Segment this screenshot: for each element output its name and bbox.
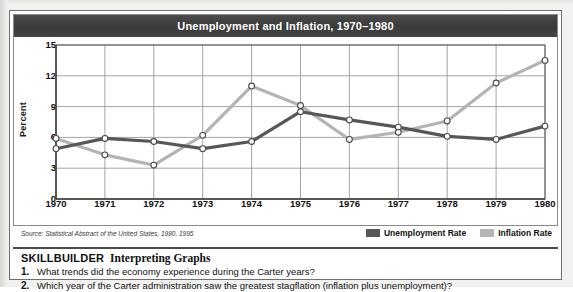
x-tick-label: 1971 bbox=[85, 199, 125, 209]
data-point-inflation bbox=[347, 137, 353, 143]
legend-item: Inflation Rate bbox=[480, 228, 552, 238]
x-tick-label: 1977 bbox=[378, 199, 418, 209]
data-point-inflation bbox=[298, 103, 304, 109]
data-point-unemployment bbox=[542, 123, 548, 129]
question-text: What trends did the economy experience d… bbox=[37, 266, 315, 278]
legend-item: Unemployment Rate bbox=[366, 228, 466, 238]
chart-meta-row: Source: Statistical Abstract of the Unit… bbox=[13, 226, 558, 248]
x-axis-tick-labels: 1970197119721973197419751976197719781979… bbox=[14, 199, 559, 215]
legend-label: Inflation Rate bbox=[498, 228, 552, 238]
legend-label: Unemployment Rate bbox=[384, 228, 466, 238]
data-point-unemployment bbox=[493, 137, 499, 143]
x-tick-label: 1974 bbox=[232, 199, 272, 209]
skillbuilder-subtitle: Interpreting Graphs bbox=[110, 252, 210, 264]
data-point-unemployment bbox=[347, 117, 353, 123]
legend-swatch-icon bbox=[366, 229, 380, 237]
data-point-inflation bbox=[151, 162, 157, 168]
scan-edge-left bbox=[0, 0, 8, 287]
x-tick-label: 1979 bbox=[476, 199, 516, 209]
source-note: Source: Statistical Abstract of the Unit… bbox=[21, 230, 193, 237]
x-tick-label: 1980 bbox=[525, 199, 565, 209]
data-point-inflation bbox=[53, 136, 59, 142]
data-point-unemployment bbox=[444, 133, 450, 139]
skillbuilder-section: SKILLBUILDERInterpreting Graphs 1.What t… bbox=[13, 247, 558, 278]
legend-swatch-icon bbox=[480, 229, 494, 237]
question-number: 2. bbox=[21, 280, 32, 292]
x-tick-label: 1978 bbox=[427, 199, 467, 209]
chart-legend: Unemployment RateInflation Rate bbox=[366, 228, 552, 238]
data-point-unemployment bbox=[298, 109, 304, 115]
x-tick-label: 1970 bbox=[36, 199, 76, 209]
data-point-inflation bbox=[200, 132, 206, 138]
chart-panel: Unemployment and Inflation, 1970–1980 Pe… bbox=[13, 14, 558, 226]
chart-title: Unemployment and Inflation, 1970–1980 bbox=[177, 20, 393, 32]
x-tick-label: 1973 bbox=[183, 199, 223, 209]
x-tick-label: 1972 bbox=[134, 199, 174, 209]
x-tick-label: 1976 bbox=[329, 199, 369, 209]
skillbuilder-question: 2.Which year of the Carter administratio… bbox=[21, 280, 558, 292]
data-point-inflation bbox=[395, 129, 401, 135]
data-point-inflation bbox=[249, 83, 255, 89]
chart-title-bar: Unemployment and Inflation, 1970–1980 bbox=[14, 15, 557, 37]
data-point-unemployment bbox=[102, 136, 108, 142]
data-point-inflation bbox=[444, 118, 450, 124]
skillbuilder-question: 1.What trends did the economy experience… bbox=[21, 266, 558, 279]
data-point-unemployment bbox=[151, 139, 157, 145]
skillbuilder-title: SKILLBUILDER bbox=[21, 252, 104, 264]
data-point-unemployment bbox=[249, 139, 255, 145]
data-point-inflation bbox=[542, 58, 548, 64]
plot-area: Percent 03691215 19701971197219731974197… bbox=[14, 37, 559, 227]
figure-card: Unemployment and Inflation, 1970–1980 Pe… bbox=[9, 10, 562, 280]
data-point-inflation bbox=[102, 152, 108, 158]
scan-edge-top bbox=[0, 0, 573, 6]
data-point-unemployment bbox=[200, 146, 206, 152]
x-tick-label: 1975 bbox=[281, 199, 321, 209]
question-number: 1. bbox=[21, 266, 32, 279]
skillbuilder-question-list: 1.What trends did the economy experience… bbox=[21, 266, 558, 292]
data-point-unemployment bbox=[53, 146, 59, 152]
question-text: Which year of the Carter administration … bbox=[37, 280, 452, 292]
data-point-inflation bbox=[493, 80, 499, 86]
skillbuilder-heading: SKILLBUILDERInterpreting Graphs bbox=[21, 252, 558, 265]
